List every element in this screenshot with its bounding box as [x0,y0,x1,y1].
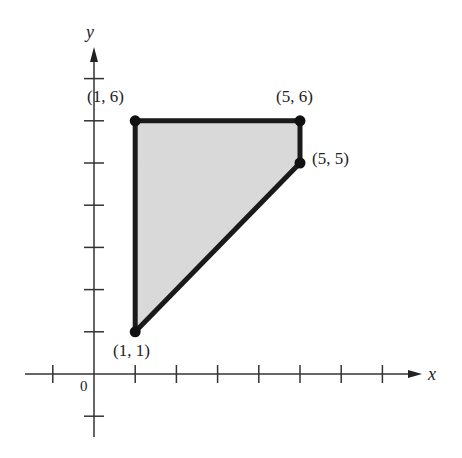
y-axis-label: y [84,22,94,42]
vertex-label-1-1: (1, 1) [113,341,150,360]
region-polygon [135,121,300,332]
vertex-label-1-6: (1, 6) [87,87,124,106]
vertex-point [130,326,141,337]
vertex-point [130,115,141,126]
x-axis-label: x [427,364,436,384]
origin-label: 0 [80,378,88,394]
y-axis-arrow-icon [90,47,98,62]
shaded-region [130,115,306,337]
vertex-point [295,115,306,126]
vertex-label-5-6: (5, 6) [276,87,313,106]
vertex-label-5-5: (5, 5) [312,149,349,168]
x-axis-arrow-icon [408,370,422,378]
vertex-point [295,158,306,169]
coordinate-plane: (1, 6) (5, 6) (5, 5) (1, 1) x y 0 [0,0,462,458]
